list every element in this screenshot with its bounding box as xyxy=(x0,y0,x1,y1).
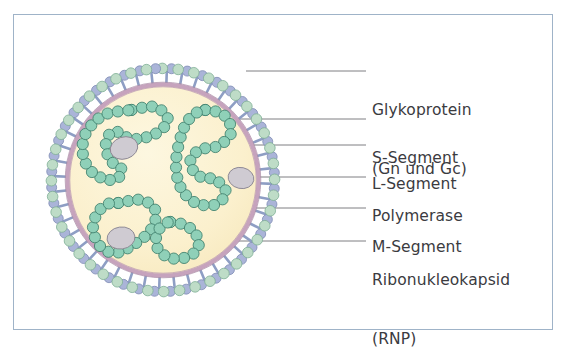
label-ribonukleokapsid: Ribonukleokapsid (RNP) xyxy=(372,232,510,358)
spike-lobe xyxy=(97,81,108,92)
spike-lobe xyxy=(50,144,61,155)
rnp-bead xyxy=(152,242,163,253)
spike-lobe xyxy=(265,143,276,154)
rnp-bead xyxy=(224,118,235,129)
rnp-bead xyxy=(123,195,134,206)
rnp-bead xyxy=(141,132,152,143)
spike-lobe xyxy=(56,222,67,233)
spike-lobe xyxy=(98,269,109,280)
spike-lobe xyxy=(127,282,138,293)
rnp-bead xyxy=(87,222,98,233)
spike-lobe xyxy=(205,276,216,287)
rnp-bead xyxy=(123,105,134,116)
spike-lobe xyxy=(141,64,152,75)
spike-lobe xyxy=(85,259,96,270)
spike-lobe xyxy=(174,285,185,296)
label-ribonukleokapsid-line1: Ribonukleokapsid xyxy=(372,271,510,291)
rnp-bead xyxy=(162,217,173,228)
spike-lobe xyxy=(269,174,280,185)
rnp-bead xyxy=(149,204,160,215)
spike-lobe xyxy=(252,234,263,245)
rnp-bead xyxy=(112,106,123,117)
spike-lobe xyxy=(251,114,262,125)
rnp-bead xyxy=(210,141,221,152)
rnp-bead xyxy=(102,108,113,119)
spike-lobe xyxy=(173,64,184,75)
rnp-bead xyxy=(100,139,111,150)
rnp-bead xyxy=(172,172,183,183)
spike-lobe xyxy=(46,175,57,186)
spike-lobe xyxy=(242,247,253,258)
spike-lobe xyxy=(151,64,161,74)
spike-lobe xyxy=(219,268,230,279)
rnp-bead xyxy=(89,232,100,243)
rnp-bead xyxy=(195,171,206,182)
spike-lobe xyxy=(63,115,74,126)
rnp-bead xyxy=(77,138,88,149)
spike-lobe xyxy=(56,129,67,140)
rnp-bead xyxy=(170,162,181,173)
spike-lobe xyxy=(143,285,154,296)
rnp-bead xyxy=(191,230,202,241)
spike-lobe xyxy=(231,259,242,270)
spike-lobe xyxy=(47,191,58,202)
rnp-bead xyxy=(171,151,182,162)
spike-lobe xyxy=(111,73,122,84)
spike-lobe xyxy=(84,91,95,102)
rnp-bead xyxy=(173,141,184,152)
spike-lobe xyxy=(47,160,58,171)
spike-lobe xyxy=(203,73,214,84)
spike-lobe xyxy=(259,220,270,231)
spike-lobe xyxy=(158,286,169,297)
spike-lobe xyxy=(74,248,85,259)
spike-lobe xyxy=(217,80,228,91)
rnp-bead xyxy=(191,107,202,118)
spike-lobe xyxy=(64,236,75,247)
spike-lobe xyxy=(268,190,279,201)
rnp-bead xyxy=(77,148,88,159)
spike-lobe xyxy=(51,207,62,218)
rnp-bead xyxy=(136,102,147,113)
spike-lobe xyxy=(126,68,137,79)
spike-lobe xyxy=(112,276,123,287)
spike-lobe xyxy=(230,90,241,101)
spike-lobe xyxy=(259,128,270,139)
label-ribonukleokapsid-line2: (RNP) xyxy=(372,330,510,350)
rnp-bead xyxy=(208,199,219,210)
rnp-bead xyxy=(103,198,114,209)
virus-diagram-figure: Glykoprotein (Gn und Gc) S-Segment L-Seg… xyxy=(0,0,580,358)
spike-lobe xyxy=(265,205,276,216)
spike-lobe xyxy=(73,102,84,113)
spike-lobe xyxy=(188,67,199,78)
spike-lobe xyxy=(268,158,279,169)
rnp-bead xyxy=(178,252,189,263)
spike-lobe xyxy=(242,101,253,112)
spike-lobe xyxy=(190,282,201,293)
